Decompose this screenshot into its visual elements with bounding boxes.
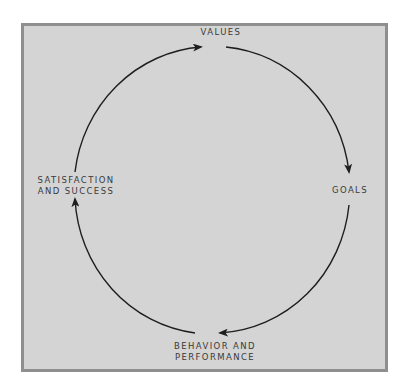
node-satisfaction-and-success: SATISFACTION AND SUCCESS — [36, 175, 116, 197]
node-behavior-line-2: PERFORMANCE — [170, 352, 260, 363]
arrow-values-to-goals — [226, 47, 349, 172]
arrow-goals-to-behavior — [220, 205, 349, 333]
node-goals-line-1: GOALS — [322, 185, 378, 196]
arrow-behavior-to-satisfaction — [75, 199, 195, 333]
node-satisfaction-line-1: SATISFACTION — [36, 175, 116, 186]
node-goals: GOALS — [322, 185, 378, 196]
node-satisfaction-line-2: AND SUCCESS — [36, 186, 116, 197]
node-values: VALUES — [191, 27, 251, 38]
node-behavior-line-1: BEHAVIOR AND — [170, 341, 260, 352]
node-values-line-1: VALUES — [191, 27, 251, 38]
node-behavior-and-performance: BEHAVIOR AND PERFORMANCE — [170, 341, 260, 363]
arrow-satisfaction-to-values — [75, 47, 201, 172]
